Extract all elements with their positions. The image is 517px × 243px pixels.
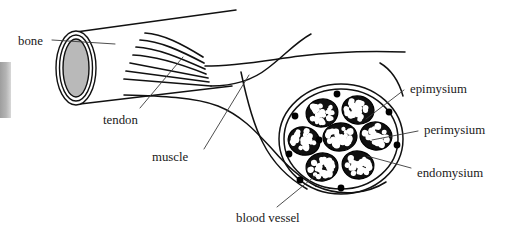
- muscle-upper-fold: [211, 34, 311, 86]
- label-muscle: muscle: [152, 150, 189, 164]
- blood-vessel-dot: [286, 151, 293, 158]
- blood-vessel-dot: [292, 113, 299, 120]
- blood-vessel-dot: [394, 142, 401, 149]
- figure-canvas: bone tendon muscle blood vessel epimysiu…: [0, 0, 517, 243]
- bone-top-line: [76, 10, 236, 32]
- fascicle: [304, 151, 340, 183]
- blood-vessel-dot: [316, 137, 323, 144]
- label-endomysium: endomysium: [417, 166, 483, 180]
- bone-marrow-cavity: [63, 39, 89, 97]
- muscle-top-edge: [205, 51, 405, 66]
- fascicle-layer: [284, 93, 393, 183]
- bone-shaft: [76, 10, 236, 104]
- label-blood-vessel: blood vessel: [236, 211, 300, 225]
- fascicle: [358, 120, 394, 152]
- tendon-fibers: [124, 33, 211, 86]
- label-tendon: tendon: [103, 113, 138, 127]
- label-bone: bone: [18, 34, 43, 48]
- leader-blood-vessel: [277, 176, 315, 207]
- muscle-right-top-taper: [380, 63, 403, 96]
- muscle-anatomy-diagram: bone tendon muscle blood vessel epimysiu…: [0, 0, 517, 243]
- label-epimysium: epimysium: [410, 82, 467, 96]
- blood-vessel-dot: [386, 109, 393, 116]
- label-perimysium: perimysium: [424, 123, 485, 137]
- blood-vessel-dot: [338, 185, 345, 192]
- muscle-lower-edge: [124, 95, 316, 186]
- blood-vessel-dot: [297, 177, 304, 184]
- blood-vessel-dot: [334, 91, 341, 98]
- fascicle: [339, 148, 376, 182]
- fascicle: [340, 93, 376, 126]
